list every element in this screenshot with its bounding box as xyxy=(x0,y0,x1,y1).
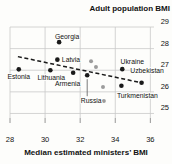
tick-label-x-28: 28 xyxy=(6,135,14,144)
data-point-russia xyxy=(85,73,90,78)
country-label-ukraine: Ukraine xyxy=(121,58,145,65)
tick-label-x-30: 30 xyxy=(41,135,49,144)
data-point-uzbekistan xyxy=(139,80,144,85)
country-label-latvia: Latvia xyxy=(62,56,80,63)
data-point-latvia xyxy=(55,57,60,62)
data-point-armenia xyxy=(71,71,76,76)
country-label-uzbekistan: Uzbekistan xyxy=(130,67,164,74)
chart-title: Adult population BMI xyxy=(90,4,170,13)
data-point-unlabeled xyxy=(101,85,105,89)
tick-label-y-26: 26 xyxy=(161,82,169,91)
data-point-estonia xyxy=(16,67,21,72)
data-point-unlabeled xyxy=(94,65,98,69)
tick-label-y-29: 29 xyxy=(161,17,169,26)
bmi-scatter-chart: 28303234362526272829 GeorgiaLatviaEstoni… xyxy=(0,0,172,164)
country-label-russia: Russia xyxy=(81,97,102,104)
tick-label-y-25: 25 xyxy=(161,103,169,112)
country-label-turkmenistan: Turkmenistan xyxy=(117,92,158,99)
country-label-estonia: Estonia xyxy=(7,73,30,80)
data-point-georgia xyxy=(57,40,62,45)
tick-label-x-34: 34 xyxy=(111,135,119,144)
data-point-ukraine xyxy=(120,67,125,72)
country-label-armenia: Armenia xyxy=(55,80,81,87)
chart-canvas: 28303234362526272829 GeorgiaLatviaEstoni… xyxy=(0,0,172,164)
x-axis-title: Median estimated ministers’ BMI xyxy=(24,148,148,157)
data-point-unlabeled xyxy=(102,99,106,103)
tick-label-x-32: 32 xyxy=(76,135,84,144)
tick-label-y-28: 28 xyxy=(161,39,169,48)
data-point-lithuania xyxy=(48,68,53,73)
data-point-turkmenistan xyxy=(119,83,124,88)
country-labels: GeorgiaLatviaEstoniaLithuaniaArmeniaRuss… xyxy=(7,33,164,105)
tick-label-x-36: 36 xyxy=(146,135,154,144)
country-label-georgia: Georgia xyxy=(55,33,79,41)
data-point-unlabeled xyxy=(89,59,93,63)
